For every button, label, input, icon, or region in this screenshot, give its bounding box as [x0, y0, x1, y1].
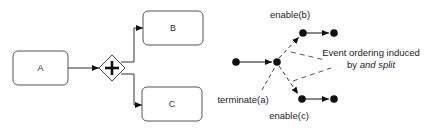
label-enable-c: enable(c) [269, 110, 309, 121]
event-node-c2 [330, 95, 338, 103]
task-a-label: A [37, 63, 43, 73]
terminate-pointer [262, 67, 275, 90]
bpmn-diagram: A B C [13, 11, 203, 121]
task-b: B [143, 11, 203, 45]
event-node-start [232, 58, 240, 66]
annotation-prefix: by [347, 59, 360, 70]
annotation-pointer-lower [293, 68, 331, 81]
annotation-italic: and split [360, 59, 396, 70]
event-node-b1 [299, 29, 307, 37]
annotation-line1: Event ordering induced [322, 47, 420, 58]
annotation-line2: by and split [347, 59, 395, 70]
annotation-pointer-upper [291, 52, 325, 60]
event-node-b2 [330, 29, 338, 37]
parallel-gateway [99, 55, 125, 81]
label-enable-b: enable(b) [270, 9, 310, 20]
ordering-edge-b [279, 37, 299, 58]
task-b-label: B [170, 23, 176, 33]
flow-gateway-to-b [121, 28, 143, 62]
task-a: A [13, 51, 68, 85]
task-c: C [142, 87, 202, 121]
event-graph: enable(b) terminate(a) enable(c) Event o… [217, 9, 419, 121]
diagram-canvas: A B C [0, 0, 426, 128]
event-node-terminate-a [273, 58, 281, 66]
task-c-label: C [169, 99, 176, 109]
flow-gateway-to-c [121, 74, 142, 105]
event-node-c1 [298, 95, 306, 103]
label-terminate-a: terminate(a) [217, 94, 268, 105]
